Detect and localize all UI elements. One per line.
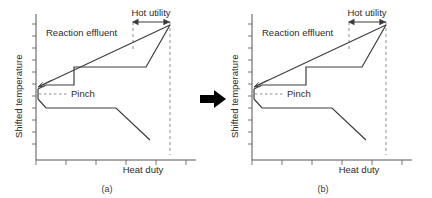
panel-b-pinch-label: Pinch (287, 88, 311, 99)
panel-a-caption: (a) (102, 184, 113, 194)
panel-b-caption: (b) (318, 184, 329, 194)
panel-a-hot-utility-label: Hot utility (131, 7, 170, 18)
panel-b-y-axis-label: Shifted temperature (229, 55, 240, 138)
panel-a-pinch-label: Pinch (71, 88, 95, 99)
panel-b-reaction-effluent-label: Reaction effluent (262, 27, 333, 38)
panel-a-y-axis-label: Shifted temperature (13, 55, 24, 138)
panel-a-x-axis-label: Heat duty (123, 164, 164, 175)
panel-a-reaction-effluent-label: Reaction effluent (46, 27, 117, 38)
pinch-analysis-figure: Shifted temperature Heat duty Hot utilit… (0, 0, 432, 198)
panel-b-hot-utility-label: Hot utility (347, 7, 386, 18)
panel-b-x-axis-label: Heat duty (339, 164, 380, 175)
